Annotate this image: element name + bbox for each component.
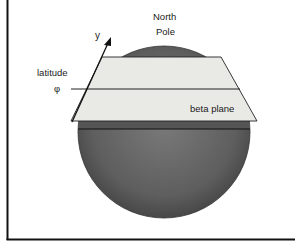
y-axis-label: y	[95, 30, 100, 41]
north-label: North	[153, 11, 176, 22]
pole-label: Pole	[156, 26, 175, 37]
plane-shadow-band	[78, 121, 250, 129]
latitude-label: latitude	[37, 67, 68, 78]
diagram-frame	[0, 0, 295, 247]
beta-plane-label: beta plane	[190, 103, 234, 114]
y-axis-arrowhead-icon	[104, 37, 111, 46]
phi-label: φ	[54, 83, 60, 94]
beta-plane-diagram	[0, 0, 295, 247]
